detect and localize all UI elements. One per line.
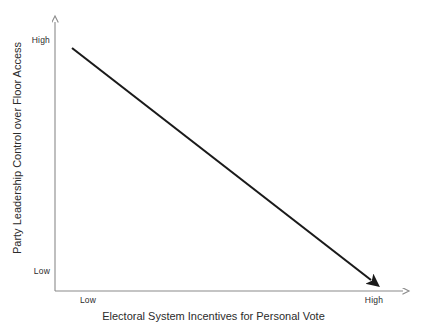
y-axis-tick-low: Low (34, 267, 55, 276)
chart-plot-area (0, 0, 427, 333)
y-axis-tick-high: High (32, 36, 55, 45)
chart-figure: High Low Low High Electoral System Incen… (0, 0, 427, 333)
x-axis-tick-high: High (365, 296, 383, 305)
trend-line (72, 48, 371, 280)
y-axis-title-container: Party Leadership Control over Floor Acce… (0, 0, 34, 295)
y-axis-title: Party Leadership Control over Floor Acce… (11, 41, 23, 253)
x-axis-tick-low: Low (80, 296, 96, 305)
x-axis-title: Electoral System Incentives for Personal… (0, 310, 427, 322)
